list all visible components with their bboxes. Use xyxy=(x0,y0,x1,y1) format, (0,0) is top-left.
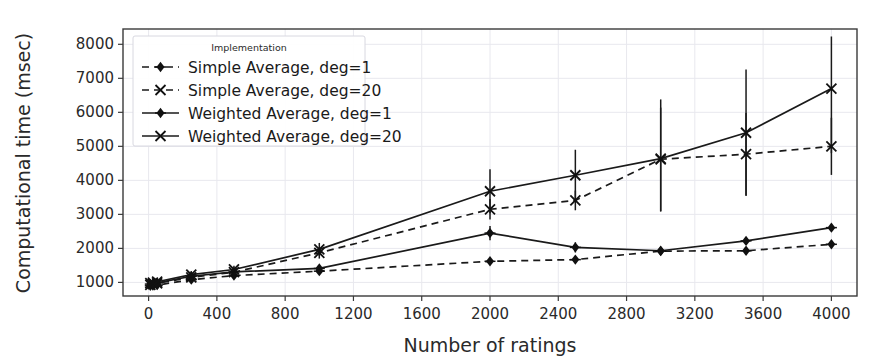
legend-entry-label: Simple Average, deg=1 xyxy=(188,59,371,77)
legend-entry-label: Weighted Average, deg=1 xyxy=(188,105,392,123)
y-tick-label: 2000 xyxy=(76,239,114,257)
x-tick-label: 1600 xyxy=(403,305,441,323)
legend[interactable]: ImplementationSimple Average, deg=1Simpl… xyxy=(133,36,402,146)
x-tick-label: 2000 xyxy=(471,305,509,323)
x-axis-label: Number of ratings xyxy=(404,334,577,356)
legend-title: Implementation xyxy=(211,42,286,53)
x-tick-label: 400 xyxy=(203,305,232,323)
x-tick-label: 0 xyxy=(144,305,154,323)
y-tick-label: 1000 xyxy=(76,273,114,291)
legend-entry-label: Weighted Average, deg=20 xyxy=(188,128,402,146)
y-tick-label: 4000 xyxy=(76,171,114,189)
y-tick-label: 5000 xyxy=(76,137,114,155)
y-tick-label: 6000 xyxy=(76,103,114,121)
x-tick-label: 4000 xyxy=(812,305,850,323)
y-tick-label: 3000 xyxy=(76,205,114,223)
x-tick-label: 800 xyxy=(271,305,300,323)
legend-entry-label: Simple Average, deg=20 xyxy=(188,82,381,100)
y-tick-label: 7000 xyxy=(76,69,114,87)
x-tick-label: 2400 xyxy=(539,305,577,323)
chart-figure: 10002000300040005000600070008000 0400800… xyxy=(0,0,884,364)
x-tick-label: 3600 xyxy=(744,305,782,323)
y-tick-label: 8000 xyxy=(76,35,114,53)
x-tick-label: 2800 xyxy=(607,305,645,323)
x-tick-label: 1200 xyxy=(334,305,372,323)
y-axis-label: Computational time (msec) xyxy=(12,33,34,293)
x-tick-label: 3200 xyxy=(676,305,714,323)
